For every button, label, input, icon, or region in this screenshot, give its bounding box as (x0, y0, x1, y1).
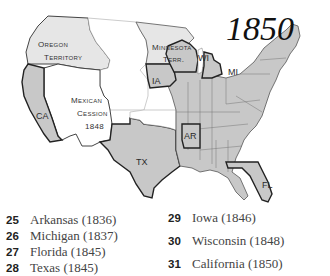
state-label-ca: CA (36, 111, 49, 121)
legend-number: 27 (6, 244, 30, 260)
oregon-label-line1: Oregon (38, 40, 68, 50)
mexican-cession-label-line3: 1848 (85, 122, 104, 132)
state-label-wi: WI (198, 53, 209, 63)
legend-item: 29Iowa (1846) (168, 210, 256, 226)
state-label-ar: AR (184, 131, 197, 141)
state-label-mi: MI (228, 67, 238, 77)
map-year-title: 1850 (226, 10, 294, 48)
state-label-tx: TX (136, 157, 148, 167)
legend-number: 25 (6, 212, 30, 228)
legend-item: 30Wisconsin (1848) (168, 233, 284, 249)
legend-item: 31California (1850) (168, 256, 283, 272)
legend-item: 27Florida (1845) (6, 244, 105, 260)
legend-number: 31 (168, 256, 192, 272)
legend-label: Texas (1845) (30, 260, 98, 275)
legend-number: 29 (168, 210, 192, 226)
legend-label: Florida (1845) (30, 244, 105, 259)
legend-label: Iowa (1846) (192, 210, 256, 225)
legend-label: California (1850) (192, 256, 283, 271)
legend-item: 25Arkansas (1836) (6, 212, 116, 228)
legend-item: 28Texas (1845) (6, 260, 98, 276)
oregon-label-line2: Territory (44, 53, 82, 63)
legend-number: 28 (6, 260, 30, 276)
minnesota-label-line1: Minnesota (152, 43, 192, 53)
legend-label: Arkansas (1836) (30, 212, 116, 227)
legend-item: 26Michigan (1837) (6, 228, 118, 244)
legend-label: Wisconsin (1848) (192, 233, 284, 248)
state-label-fl: FL (262, 180, 273, 190)
minnesota-label-line2: Terr. (163, 55, 184, 65)
legend-number: 26 (6, 228, 30, 244)
legend-number: 30 (168, 233, 192, 249)
state-label-ia: IA (152, 76, 161, 86)
mexican-cession-label-line1: Mexican (71, 96, 102, 106)
legend-label: Michigan (1837) (30, 228, 118, 243)
mexican-cession-label-line2: Cession (77, 109, 108, 119)
